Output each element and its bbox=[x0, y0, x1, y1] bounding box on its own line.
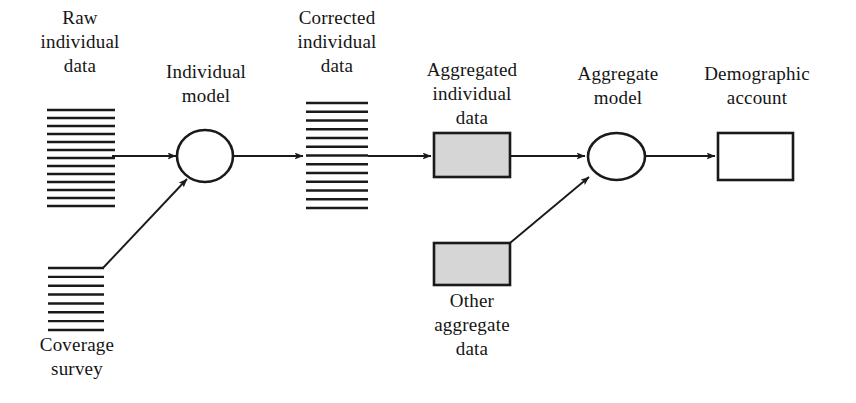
label-demographic-account: Demographic account bbox=[688, 62, 826, 110]
node-corrected-individual-data bbox=[306, 103, 368, 208]
node-individual-model bbox=[177, 130, 233, 182]
node-shaded-box bbox=[434, 133, 510, 177]
label-raw-individual-data: Raw individual data bbox=[25, 6, 135, 78]
node-raw-individual-data bbox=[47, 110, 115, 206]
edge-coverage-to-individual-model bbox=[103, 179, 187, 268]
node-other-aggregate-data bbox=[434, 243, 510, 285]
node-demographic-account bbox=[718, 133, 793, 180]
node-aggregate-model bbox=[588, 133, 645, 180]
node-plain-box bbox=[718, 133, 793, 180]
node-ellipse bbox=[177, 130, 233, 182]
label-corrected-individual-data: Corrected individual data bbox=[282, 6, 392, 78]
edge-other-aggregate-to-aggregate-model bbox=[510, 177, 589, 243]
node-shaded-box bbox=[434, 243, 510, 285]
label-aggregated-individual-data: Aggregated individual data bbox=[411, 58, 533, 130]
node-ellipse bbox=[588, 133, 645, 180]
label-aggregate-model: Aggregate model bbox=[560, 62, 676, 110]
label-other-aggregate-data: Other aggregate data bbox=[409, 289, 535, 361]
label-individual-model: Individual model bbox=[148, 60, 264, 108]
node-aggregated-individual-data bbox=[434, 133, 510, 177]
node-coverage-survey bbox=[48, 268, 104, 330]
diagram-canvas: Raw individual dataIndividual modelCorre… bbox=[0, 0, 856, 403]
label-coverage-survey: Coverage survey bbox=[23, 333, 131, 381]
